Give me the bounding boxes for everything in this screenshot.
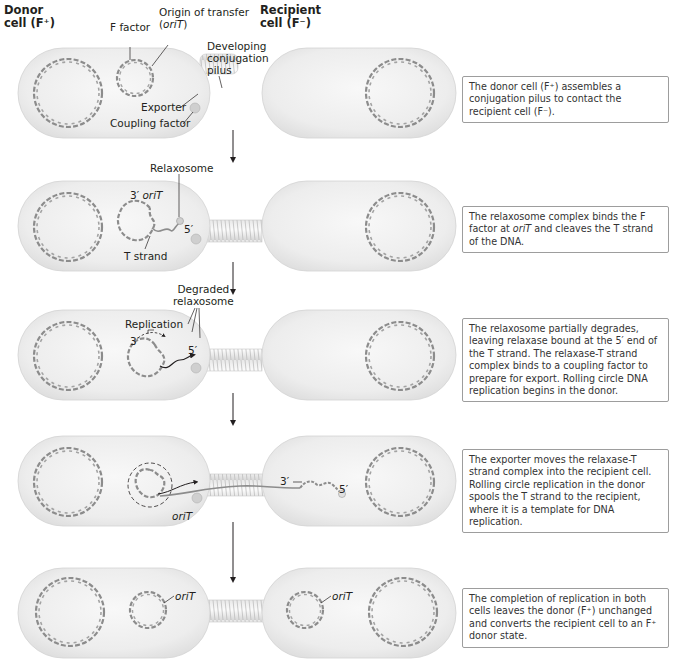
donor-cell: [18, 181, 210, 271]
panel-4: [18, 436, 456, 526]
coupling-factor: [191, 234, 201, 244]
oriT-label: oriT: [172, 510, 192, 522]
conjugation-diagram: Donor cell (F⁺) Recipient cell (F⁻) F fa…: [0, 0, 677, 672]
f-factor-label: F factor: [110, 21, 150, 33]
t-strand-label: T strand: [124, 250, 167, 262]
recipient-cell: [262, 436, 456, 526]
recipient-cell-label: Recipient cell (F⁻): [260, 4, 321, 30]
three-prime-label: 3′: [280, 475, 289, 487]
developing-pilus-label: Developing conjugation pilus: [207, 40, 269, 76]
step-4-caption: The exporter moves the relaxase-T strand…: [462, 449, 669, 533]
oriT-label: 3′ oriT: [130, 189, 163, 201]
coupling-factor: [192, 493, 202, 503]
donor-cell-label: Donor cell (F⁺): [4, 4, 55, 30]
step-3-caption: The relaxosome partially degrades, leavi…: [462, 318, 669, 402]
recipient-oriT-label: oriT: [332, 590, 352, 602]
coupling-factor: [191, 363, 201, 373]
step-2-caption: The relaxosome complex binds the F facto…: [462, 206, 669, 253]
origin-of-transfer-label: Origin of transfer (oriT): [159, 6, 249, 30]
replication-label: Replication: [125, 318, 183, 330]
panel-2: [18, 174, 456, 271]
relaxosome-label: Relaxosome: [150, 162, 214, 174]
five-prime-label: 5′: [184, 223, 193, 235]
three-prime-label: 3′: [130, 335, 139, 347]
panel-3: [18, 308, 456, 400]
coupling-factor-label: Coupling factor: [110, 117, 190, 129]
degraded-relaxosome-label: Degraded relaxosome: [173, 283, 234, 307]
coupling-factor: [190, 103, 200, 113]
step-1-caption: The donor cell (F⁺) assembles a conjugat…: [462, 76, 669, 123]
recipient-cell: [262, 310, 456, 400]
recipient-cell: [262, 568, 456, 658]
recipient-cell: [262, 48, 456, 138]
donor-cell: [18, 568, 210, 658]
step-5-caption: The completion of replication in both ce…: [462, 588, 669, 648]
recipient-cell: [262, 181, 456, 271]
donor-oriT-label: oriT: [175, 590, 195, 602]
five-prime-label: 5′: [339, 483, 348, 495]
panel-5: [18, 568, 456, 658]
five-prime-label: 5′: [188, 344, 197, 356]
relaxosome: [177, 218, 184, 225]
exporter-label: Exporter: [141, 101, 186, 113]
